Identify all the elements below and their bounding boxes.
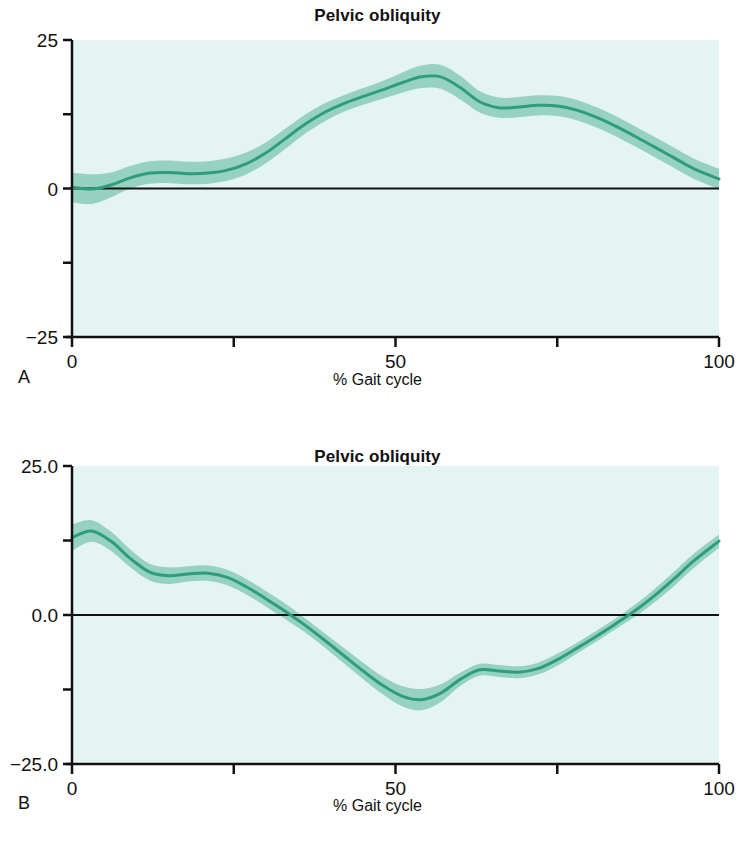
panel-b-letter: B xyxy=(18,793,30,814)
x-tick-label: 50 xyxy=(385,778,406,799)
figure-page: Pelvic obliquity 250−25050100 % Gait cyc… xyxy=(0,0,755,847)
x-tick-label: 0 xyxy=(67,778,78,799)
y-tick-label: 0.0 xyxy=(32,605,58,626)
panel-a: Pelvic obliquity 250−25050100 % Gait cyc… xyxy=(0,0,755,424)
x-tick-label: 50 xyxy=(385,351,406,372)
x-tick-label: 100 xyxy=(703,351,735,372)
panel-a-x-axis-label: % Gait cycle xyxy=(0,371,755,389)
y-tick-label: 25.0 xyxy=(21,456,58,477)
y-tick-label: −25.0 xyxy=(10,754,58,775)
panel-a-plot: 250−25050100 xyxy=(0,0,755,424)
x-tick-label: 0 xyxy=(67,351,78,372)
panel-b-plot: 25.00.0−25.0050100 xyxy=(0,423,755,847)
panel-b-x-axis-label: % Gait cycle xyxy=(0,797,755,815)
y-tick-label: 25 xyxy=(37,30,58,51)
y-tick-label: 0 xyxy=(47,179,58,200)
x-tick-label: 100 xyxy=(703,778,735,799)
panel-b: Pelvic obliquity 25.00.0−25.0050100 % Ga… xyxy=(0,423,755,847)
panel-a-letter: A xyxy=(18,367,30,388)
y-tick-label: −25 xyxy=(26,327,58,348)
